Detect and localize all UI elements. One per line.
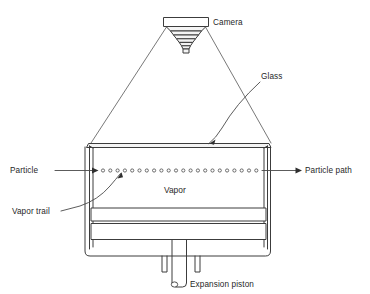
droplet (160, 169, 163, 172)
piston-flange-right (195, 256, 200, 272)
droplet (211, 169, 214, 172)
cloud-chamber-diagram: Camera Glass Particle Particle path Vapo… (0, 0, 370, 294)
expansion-piston-label-group: Expansion piston (190, 280, 254, 289)
expansion-piston-label: Expansion piston (190, 280, 254, 289)
droplet (196, 169, 199, 172)
droplet (131, 169, 134, 172)
glass-leader-line (209, 82, 260, 144)
vapor-trail-leader-line (61, 174, 121, 212)
droplet (109, 169, 112, 172)
droplet (182, 169, 185, 172)
particle-path-label-group: Particle path (262, 166, 352, 175)
piston-rod-body (172, 240, 187, 287)
droplet (153, 169, 156, 172)
particle-leader-arrow (92, 168, 99, 174)
vapor-droplet-track (101, 169, 258, 172)
droplet (145, 169, 148, 172)
lens-step-4 (177, 39, 196, 43)
vapor-trail-label: Vapor trail (12, 207, 50, 216)
piston-plate-lower (91, 224, 266, 240)
glass-label-group: Glass (209, 72, 282, 145)
figure-root: Camera Glass Particle Particle path Vapo… (0, 0, 370, 294)
lens-step-2 (171, 31, 202, 35)
camera-label: Camera (213, 18, 243, 27)
plate-lower-body (91, 224, 266, 240)
droplet (204, 169, 207, 172)
sight-line-right (206, 27, 272, 143)
droplet (226, 169, 229, 172)
droplet (218, 169, 221, 172)
droplet (138, 169, 141, 172)
droplet (174, 169, 177, 172)
glass-label: Glass (261, 72, 282, 81)
droplet (123, 169, 126, 172)
droplet (247, 169, 250, 172)
glass-top-plate (87, 144, 272, 148)
lens-step-7 (183, 49, 189, 53)
droplet (233, 169, 236, 172)
droplet (116, 169, 119, 172)
vapor-label: Vapor (164, 185, 186, 195)
camera (164, 18, 209, 54)
camera-label-group: Camera (213, 18, 243, 27)
lens-step-5 (179, 42, 193, 45)
piston-plate-upper (91, 208, 266, 221)
cloud-chamber (85, 144, 271, 257)
camera-body (164, 18, 209, 27)
droplet (240, 169, 243, 172)
droplet (255, 169, 258, 172)
droplet (167, 169, 170, 172)
piston-flange-left (162, 256, 167, 272)
sight-line-left (91, 27, 167, 143)
vapor-label-group: Vapor (164, 185, 186, 195)
camera-lens-cone (166, 27, 206, 54)
lens-step-1 (166, 27, 206, 32)
piston-rod-end-cap (171, 282, 177, 287)
plate-upper-body (91, 208, 266, 221)
particle-path-leader-arrow (296, 168, 303, 174)
droplet (101, 169, 104, 172)
particle-path-label: Particle path (305, 166, 352, 175)
lens-step-3 (174, 35, 199, 39)
glass-top-face (87, 144, 272, 148)
droplet (189, 169, 192, 172)
particle-label: Particle (10, 166, 38, 175)
